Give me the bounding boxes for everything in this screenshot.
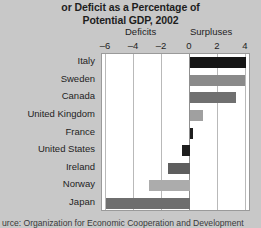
x-tick-4: 4 [242,40,247,51]
category-label-italy: Italy [78,55,95,66]
x-tick-2: 2 [214,40,219,51]
chart-title: or Deficit as a Percentage of Potential … [0,1,261,26]
bar-row [102,75,249,86]
category-label-ireland: Ireland [66,161,95,172]
bar-united-states [182,145,190,156]
bar-row [102,110,249,121]
chart-title-line-1: or Deficit as a Percentage of [61,1,199,13]
bar-canada [190,92,236,103]
source-note: urce: Organization for Economic Cooperat… [0,218,261,228]
bar-sweden [190,75,245,86]
bar-row [102,57,249,68]
bar-france [190,128,193,139]
category-label-norway: Norway [63,178,95,189]
x-tick-neg6: –6 [100,40,111,51]
x-tick-neg2: –2 [156,40,167,51]
x-tick-neg4: –4 [128,40,139,51]
category-label-sweden: Sweden [61,73,95,84]
category-labels: ItalySwedenCanadaUnited KingdomFranceUni… [0,53,98,211]
category-label-united-kingdom: United Kingdom [27,108,95,119]
bar-italy [190,57,246,68]
bar-norway [149,180,190,191]
x-axis-tick-labels: –6–4–2024 [0,40,261,53]
bar-ireland [168,163,190,174]
bar-row [102,163,249,174]
x-tick-0: 0 [186,40,191,51]
axis-side-labels: Deficits Surpluses [0,26,261,40]
chart-figure: or Deficit as a Percentage of Potential … [0,0,261,228]
bar-row [102,92,249,103]
bar-row [102,198,249,209]
category-label-united-states: United States [38,143,95,154]
bar-row [102,128,249,139]
deficits-label: Deficits [125,26,156,37]
plot-area [101,53,250,211]
category-label-japan: Japan [69,196,95,207]
bar-row [102,145,249,156]
bar-series [102,54,249,210]
bar-japan [106,198,190,209]
category-label-canada: Canada [62,90,95,101]
surpluses-label: Surpluses [190,26,232,37]
category-label-france: France [65,126,95,137]
bar-row [102,180,249,191]
chart-title-line-2: Potential GDP, 2002 [0,14,261,27]
bar-united-kingdom [190,110,203,121]
